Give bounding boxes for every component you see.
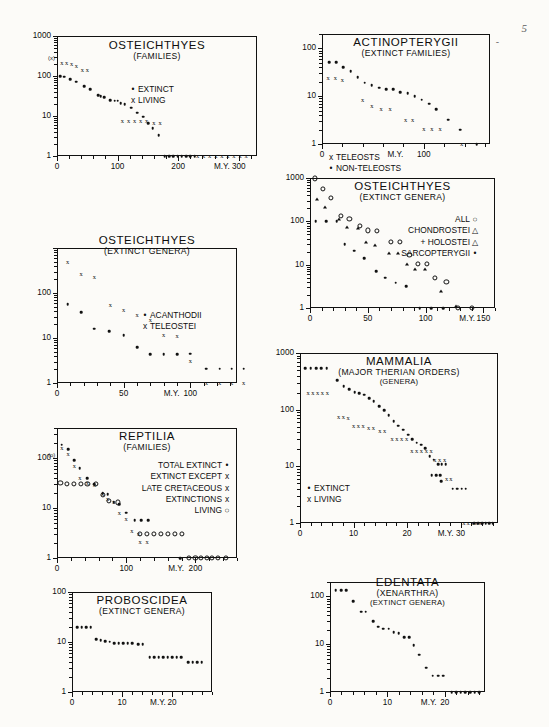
data-point-x: x (238, 153, 241, 159)
y-tick (54, 250, 57, 251)
y-tick (297, 383, 300, 384)
y-tick (54, 324, 57, 325)
legend-marker-triangle: △ (470, 237, 480, 248)
data-point-x: x (78, 475, 81, 481)
data-point-x: x (449, 476, 452, 482)
data-point-dot (348, 388, 351, 391)
legend-label: + HOLOSTEI (420, 237, 470, 247)
y-tick (307, 191, 310, 192)
x-axis-unit-label: M.Y. (447, 314, 487, 323)
y-tick (54, 428, 57, 429)
y-tick (319, 98, 322, 99)
y-tick (307, 274, 310, 275)
data-point-x: x (79, 271, 82, 277)
y-tick (54, 348, 57, 349)
legend-osteichthyes-extinct-genera-right: ALL○CHONDROSTEI△+ HOLOSTEI△SARCOPTERYGII… (401, 214, 480, 259)
x-tick (190, 383, 191, 388)
y-tick (327, 630, 330, 631)
legend-item: LIVING○ (142, 505, 232, 516)
y-tick (327, 615, 330, 616)
y-axis-label: 1000 (33, 31, 51, 40)
plot-frame (322, 34, 490, 144)
data-point-dot (124, 103, 127, 106)
x-tick (212, 692, 213, 695)
legend-item: CHONDROSTEI△ (401, 225, 480, 236)
y-tick (297, 412, 300, 413)
x-tick (445, 692, 446, 697)
data-point-dot (180, 656, 183, 659)
legend-item: SARCOPTERYGII• (401, 248, 480, 259)
y-tick (319, 130, 322, 131)
y-tick (54, 473, 57, 474)
data-point-dot (437, 674, 440, 677)
data-point-x: x (145, 118, 148, 124)
data-point-dot (176, 353, 179, 356)
data-point-x: x (422, 125, 425, 131)
data-point-dot (162, 353, 165, 356)
data-point-dot (99, 95, 102, 98)
data-point-x: x (425, 447, 428, 453)
y-tick (53, 76, 58, 77)
y-tick (69, 603, 72, 604)
data-point-dot (428, 455, 431, 458)
data-point-dot (439, 474, 442, 477)
data-point-dot (375, 270, 378, 273)
y-axis-label: 100 (290, 216, 304, 225)
x-tick (368, 308, 369, 313)
data-point-dot (133, 519, 136, 522)
y-tick (327, 655, 330, 656)
data-point-x: x (205, 380, 208, 386)
data-point-x: x (86, 67, 89, 73)
y-tick (306, 178, 311, 179)
data-point-triangle (396, 251, 400, 254)
data-point-x: x (232, 153, 235, 159)
data-point-dot (360, 610, 363, 613)
legend-item: EXTINCT EXCEPTx (142, 471, 232, 482)
data-point-dot (465, 488, 468, 491)
x-tick (202, 692, 203, 695)
legend-mammalia-major-therian-orders: •EXTINCTxLIVING (304, 483, 350, 506)
data-point-x: x (214, 153, 217, 159)
y-axis-label: 1 (46, 553, 51, 562)
y-tick (54, 42, 57, 43)
data-point-x: x (410, 447, 413, 453)
data-point-x: x (65, 59, 68, 65)
y-tick (307, 239, 310, 240)
data-point-dot (119, 102, 122, 105)
data-point-dot (418, 654, 421, 657)
y-tick (54, 434, 57, 435)
x-tick (140, 558, 141, 561)
y-tick (53, 248, 58, 249)
y-axis-label: 10 (42, 333, 51, 342)
y-tick (54, 137, 57, 138)
y-tick (327, 649, 330, 650)
y-tick (54, 317, 57, 318)
data-point-x: x (429, 447, 432, 453)
y-tick (319, 73, 322, 74)
y-tick (319, 63, 322, 64)
data-point-dot (447, 119, 450, 122)
x-tick (422, 692, 423, 695)
y-tick (68, 592, 73, 593)
data-point-x: x (347, 415, 350, 421)
data-point-circle (209, 555, 214, 560)
legend-marker-dot: • (304, 483, 314, 494)
y-tick (69, 647, 72, 648)
y-tick (54, 85, 57, 86)
y-tick (53, 116, 58, 117)
x-tick (152, 692, 153, 695)
x-tick (150, 383, 151, 386)
x-axis-label: 10 (367, 698, 407, 707)
data-point-dot (103, 96, 106, 99)
x-tick (177, 383, 178, 386)
x-tick (330, 692, 331, 697)
data-point-dot (140, 519, 143, 522)
plot-frame (72, 592, 212, 692)
data-point-dot (151, 127, 154, 130)
data-point-triangle (323, 206, 327, 209)
x-tick (237, 558, 238, 561)
y-tick (54, 97, 57, 98)
x-tick (414, 308, 415, 311)
x-tick (341, 692, 342, 695)
x-axis-label: 0 (280, 529, 320, 538)
